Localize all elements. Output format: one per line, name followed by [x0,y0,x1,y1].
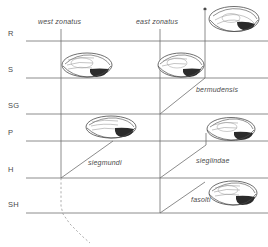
branch-line-bermudensis [160,78,205,114]
branch-label-sieglindae: sieglindae [196,157,230,164]
bermudensis-arrow-tip-icon [203,7,206,10]
stratum-label-sh: SH [8,200,19,209]
shell-illustrations [62,7,259,206]
dashed-extension-path [61,178,90,243]
figure-canvas [0,0,268,247]
branch-label-fasolti: fasolti [191,196,211,203]
stratum-label-p: P [8,128,13,137]
stratum-label-sg: SG [8,101,19,110]
stratum-label-h: H [8,165,14,174]
shell-bermudensis-top-icon [209,7,259,32]
branch-label-siegmundi: siegmundi [88,159,122,166]
stratigraphic-phylogeny-figure: R S SG P H SH west zonatus east zonatus … [0,0,268,247]
lineage-label-west-zonatus: west zonatus [38,18,81,25]
dashed-extension [61,178,90,243]
shell-fasolti-icon [209,181,257,205]
stratum-label-s: S [8,65,13,74]
shell-west-zonatus-s-icon [62,53,112,77]
branch-label-bermudensis: bermudensis [196,86,238,93]
branch-sieglindae [160,133,206,178]
lineage-label-east-zonatus: east zonatus [136,18,178,25]
shell-east-zonatus-s-icon [158,53,204,77]
stratum-label-r: R [8,29,14,38]
shell-west-zonatus-p-icon [86,116,136,138]
shell-sieglindae-icon [207,118,255,141]
